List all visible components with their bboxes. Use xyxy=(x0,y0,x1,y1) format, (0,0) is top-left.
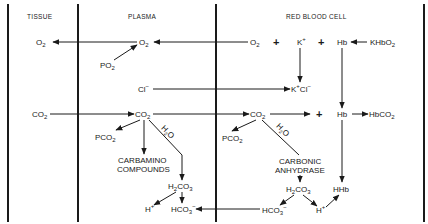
arrow-rbc-co2-to-pco2 xyxy=(232,120,256,131)
carbamino-line1: CARBAMINO xyxy=(118,156,166,165)
rbc-hhb: HHb xyxy=(333,185,350,194)
plasma-hco3: HCO3− xyxy=(171,203,196,215)
arrow-plasma-co2-to-pco2 xyxy=(116,120,140,130)
plasma-co2: CO2 xyxy=(135,110,151,120)
header-tissue: TISSUE xyxy=(27,13,53,20)
gas-exchange-diagram: TISSUE PLASMA RED BLOOD CELL O2 O2 O2 + … xyxy=(0,0,428,224)
rbc-kcl: K+Cl− xyxy=(291,83,311,94)
carbonic-anhydrase-line1: CARBONIC xyxy=(279,157,321,166)
plasma-cl: Cl− xyxy=(138,83,150,94)
plasma-o2: O2 xyxy=(139,38,149,48)
plus-2: + xyxy=(318,36,324,48)
rbc-k: K+ xyxy=(297,36,306,47)
plus-1: + xyxy=(273,36,279,48)
rbc-co2: CO2 xyxy=(250,110,266,120)
rbc-pco2: PCO2 xyxy=(222,134,243,144)
rbc-h2o: H2O xyxy=(274,122,292,140)
arrow-h2co3-to-h-rbc xyxy=(303,195,317,206)
plasma-pco2: PCO2 xyxy=(95,133,116,143)
rbc-h2co3: H2CO3 xyxy=(286,185,311,195)
arrow-h2co3-to-hco3-rbc xyxy=(280,195,294,205)
rbc-o2: O2 xyxy=(250,38,260,48)
arrow-po2-to-o2 xyxy=(114,45,137,60)
arrow-h2co3-to-h-plasma xyxy=(154,192,176,205)
rbc-hb-top: Hb xyxy=(337,38,348,47)
plasma-h2co3: H2CO3 xyxy=(168,182,193,192)
plasma-h: H+ xyxy=(145,203,155,214)
rbc-khbo2: KHbO2 xyxy=(370,38,396,48)
header-rbc: RED BLOOD CELL xyxy=(286,13,347,20)
rbc-hb-mid: Hb xyxy=(337,110,348,119)
carbonic-anhydrase-line2: ANHYDRASE xyxy=(275,166,325,175)
rbc-hbco2: HbCO2 xyxy=(369,110,395,120)
tissue-o2: O2 xyxy=(36,38,46,48)
arrow-h-to-hhb xyxy=(326,195,339,207)
rbc-hco3: HCO3− xyxy=(262,204,287,216)
tissue-co2: CO2 xyxy=(32,110,48,120)
carbamino-line2: COMPOUNDS xyxy=(117,165,170,174)
plus-3: + xyxy=(316,108,322,120)
header-plasma: PLASMA xyxy=(128,13,157,20)
plasma-po2: PO2 xyxy=(100,61,116,71)
rbc-h: H+ xyxy=(316,204,326,215)
